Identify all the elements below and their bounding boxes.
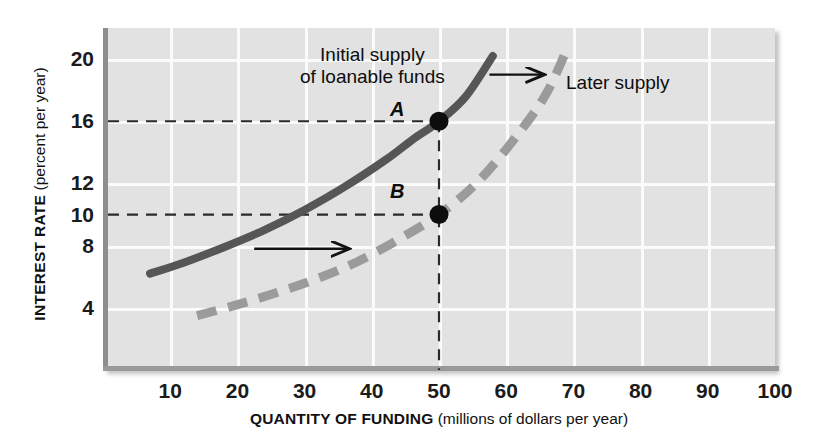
x-tick-label-70: 70 — [543, 380, 603, 401]
x-tick-label-30: 30 — [275, 380, 335, 401]
y-tick-label-4: 4 — [56, 297, 94, 318]
y-tick-label-12: 12 — [56, 172, 94, 193]
x-tick-label-40: 40 — [342, 380, 402, 401]
initial-supply-label-line1: Initial supply — [300, 44, 445, 66]
x-tick-label-100: 100 — [745, 380, 805, 401]
gridline-vertical — [237, 28, 240, 370]
gridline-vertical — [170, 28, 173, 370]
later-supply-label: Later supply — [566, 72, 670, 94]
initial-supply-label: Initial supply of loanable funds — [300, 44, 445, 89]
x-tick-label-20: 20 — [207, 380, 267, 401]
point-a-label: A — [390, 98, 404, 121]
x-tick-label-90: 90 — [678, 380, 738, 401]
gridline-vertical — [708, 28, 711, 370]
gridline-horizontal — [103, 121, 775, 124]
y-tick-label-10: 10 — [56, 204, 94, 225]
x-axis-title: QUANTITY OF FUNDING (millions of dollars… — [103, 410, 775, 428]
y-axis-line — [103, 28, 108, 370]
point-b-label: B — [390, 180, 404, 203]
x-tick-label-10: 10 — [140, 380, 200, 401]
x-axis-title-paren: (millions of dollars per year) — [438, 410, 628, 427]
gridline-horizontal — [103, 183, 775, 186]
gridline-vertical — [506, 28, 509, 370]
x-tick-label-60: 60 — [476, 380, 536, 401]
y-axis-title: INTEREST RATE (percent per year) — [31, 14, 49, 374]
y-tick-label-8: 8 — [56, 235, 94, 256]
x-axis-title-bold: QUANTITY OF FUNDING — [250, 410, 433, 427]
x-axis-line — [103, 366, 779, 371]
y-axis-title-bold: INTEREST RATE — [31, 195, 48, 321]
x-tick-label-80: 80 — [611, 380, 671, 401]
y-axis-title-paren: (percent per year) — [31, 67, 48, 190]
y-tick-labels: 4810121620 — [50, 0, 94, 446]
gridline-horizontal — [103, 246, 775, 249]
x-tick-label-50: 50 — [409, 380, 469, 401]
y-tick-label-20: 20 — [56, 48, 94, 69]
chart-figure: 4810121620 INTEREST RATE (percent per ye… — [0, 0, 815, 446]
gridline-horizontal — [103, 308, 775, 311]
y-tick-label-16: 16 — [56, 110, 94, 131]
initial-supply-label-line2: of loanable funds — [300, 66, 445, 88]
